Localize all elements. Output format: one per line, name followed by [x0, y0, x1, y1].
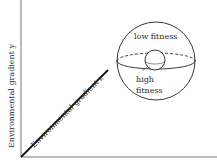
inner-ball: [145, 50, 165, 70]
low-fitness-label: low fitness: [134, 32, 177, 41]
high-fitness-label-line2: fitness: [136, 86, 163, 95]
z-axis-label: Environmental gradient z: [29, 73, 105, 149]
y-axis-label: Environmental gradient y: [7, 44, 16, 148]
fitness-sphere: low fitness high fitness: [117, 22, 195, 100]
high-fitness-label-line1: high: [136, 75, 154, 84]
fitness-landscape-diagram: Environmental gradient y Environmental g…: [0, 0, 217, 167]
